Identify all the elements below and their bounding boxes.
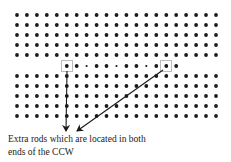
rod-dot [75,74,79,78]
rod-dot [95,53,99,57]
rod-dot [25,104,29,108]
rod-dot [144,114,148,118]
rod-dot [25,43,29,47]
rod-dot [184,84,188,88]
rod-dot [164,94,168,98]
rod-dot [85,23,89,27]
rod-dot [55,104,59,108]
rod-dot [15,23,19,27]
rod-dot [204,13,208,17]
rod-dot [105,33,109,37]
rod-dot [154,53,158,57]
rod-dot [25,33,29,37]
rod-dot [164,114,168,118]
rod-dot [144,94,148,98]
rod-dot [144,53,148,57]
rod-dot [75,104,79,108]
rod-dot [105,64,109,68]
rod-dot [95,104,99,108]
rod-dot [95,64,99,68]
rod-dot [45,43,49,47]
rod-dot [105,104,109,108]
rod-dot [204,114,208,118]
rod-dot [144,43,148,47]
rod-dot [184,53,188,57]
rod-dot [194,104,198,108]
rod-dot [204,33,208,37]
rod-dot [194,43,198,47]
rod-dot [125,23,129,27]
rod-dot [154,104,158,108]
rod-dot [75,23,79,27]
rod-dot [55,13,59,17]
rod-dot [135,43,139,47]
rod-dot [65,43,69,47]
rod-dot [115,104,119,108]
rod-dot [55,114,59,118]
rod-dot [115,84,119,88]
rod-dot [204,84,208,88]
rod-dot [164,13,168,17]
rod-dot [164,64,168,68]
rod-dot [25,114,29,118]
rod-dot [194,53,198,57]
rod-dot [154,84,158,88]
rod-dot [105,84,109,88]
rod-dot [184,23,188,27]
rod-dot [144,74,148,78]
rod-dot [75,43,79,47]
rod-dot [174,74,178,78]
rod-dot [144,23,148,27]
rod-dot [105,43,109,47]
rod-dot [194,13,198,17]
rod-dot [135,94,139,98]
rod-dot [194,84,198,88]
rod-dot [135,13,139,17]
rod-dot [85,114,89,118]
rod-dot [45,84,49,88]
rod-dot [35,104,39,108]
left-arrow [66,71,67,131]
rod-dot [55,74,59,78]
rod-dot [115,23,119,27]
rod-dot [35,13,39,17]
rod-dot [105,114,109,118]
rod-dot [204,23,208,27]
rod-dot [174,84,178,88]
rod-dot [194,23,198,27]
rod-dot [174,94,178,98]
rod-dot [35,23,39,27]
rod-dot [184,94,188,98]
rod-dot [164,23,168,27]
rod-dot [115,65,117,67]
rod-dot [45,53,49,57]
rod-dot [95,84,99,88]
rod-dot [144,84,148,88]
rod-dot [15,74,19,78]
rod-dot [15,104,19,108]
rod-dot [95,33,99,37]
rod-dot [75,13,79,17]
rod-dot [115,53,119,57]
rod-dot [135,64,139,68]
caption-line-1: Extra rods which are located in both [8,133,146,146]
rod-dot [154,13,158,17]
rod-dot [174,114,178,118]
rod-dot [214,94,218,98]
rod-dot [45,74,49,78]
rod-dot [105,53,109,57]
rod-dot [214,104,218,108]
rod-dot [204,74,208,78]
rod-dot [85,74,89,78]
rod-dot [85,53,89,57]
rod-dot [214,53,218,57]
rod-dot [15,84,19,88]
rod-dot [75,84,79,88]
rod-dot [135,33,139,37]
rod-dot [75,114,79,118]
rod-dot [85,94,89,98]
rod-dot [45,114,49,118]
rod-dot [75,64,79,68]
rod-dot [184,43,188,47]
rod-dot [95,23,99,27]
